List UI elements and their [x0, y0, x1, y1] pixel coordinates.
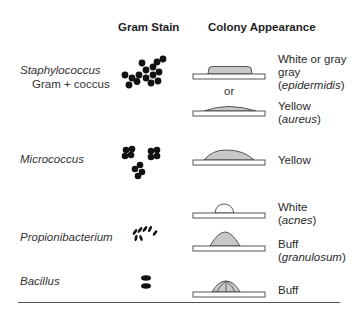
short-rods-icon	[130, 225, 160, 245]
colony-description-staph-2: Yellow (aureus)	[278, 100, 321, 126]
colony-description-propioni-2: Buff (granulosum)	[278, 238, 346, 264]
colony-convex-icon	[192, 146, 272, 168]
organism-micrococcus: Micrococcus	[20, 153, 84, 165]
colony-dome-segmented-icon	[192, 278, 272, 300]
organism-propionibacterium: Propionibacterium	[20, 231, 113, 243]
header-gram-stain: Gram Stain	[118, 21, 179, 33]
colony-description-propioni-1: White (acnes)	[278, 201, 316, 227]
colony-umbonate-icon	[192, 228, 272, 254]
organism-bacillus: Bacillus	[20, 275, 60, 287]
organism-staphylococcus: Staphylococcus	[20, 64, 101, 76]
or-separator: or	[224, 85, 234, 97]
colony-convex-low-icon	[192, 99, 272, 119]
colony-flat-raised-icon	[192, 62, 272, 82]
colony-dome-small-icon	[192, 200, 272, 220]
colony-description-staph-1: White or gray gray (epidermidis)	[278, 53, 346, 92]
cocci-tetrads-icon	[120, 145, 170, 185]
bacilli-pair-icon	[138, 274, 154, 292]
colony-description-micrococcus: Yellow	[278, 154, 311, 167]
header-colony-appearance: Colony Appearance	[208, 21, 316, 33]
colony-description-bacillus: Buff	[278, 284, 298, 297]
organism-subtitle: Gram + coccus	[32, 78, 110, 90]
cocci-cluster-icon	[120, 52, 170, 92]
bottom-divider	[18, 302, 340, 303]
